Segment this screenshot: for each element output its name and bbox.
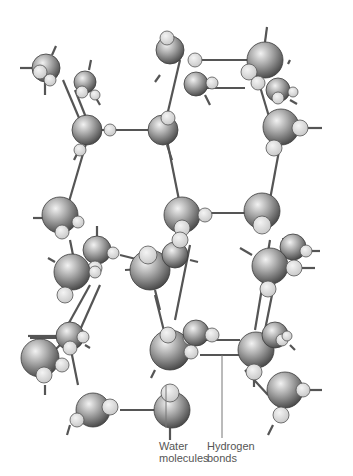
water-molecule <box>267 372 322 435</box>
hydrogen-atom <box>260 281 276 297</box>
water-molecule <box>33 197 84 239</box>
bond-stub <box>52 46 56 55</box>
bond-stub <box>155 75 160 82</box>
hydrogen-atom <box>272 92 284 104</box>
hydrogen-atom <box>107 247 119 259</box>
bond-stub <box>190 260 198 262</box>
hydrogen-atom <box>160 31 174 45</box>
water-molecule <box>183 320 219 359</box>
hydrogen-atom <box>36 367 52 383</box>
hydrogen-atom <box>57 287 73 303</box>
hydrogen-atom <box>188 53 202 67</box>
hydrogen-atom <box>206 77 218 89</box>
hydrogen-atom <box>160 327 176 343</box>
bond-stub <box>290 345 295 350</box>
oxygen-atom <box>54 254 90 290</box>
hydrogen-atom <box>76 86 88 98</box>
bond-stub <box>205 95 210 105</box>
bond-stub <box>265 27 267 42</box>
hydrogen-atom <box>63 341 77 355</box>
hydrogen-atom <box>70 413 84 427</box>
hydrogen-atom <box>198 208 212 222</box>
water-molecule <box>280 234 320 260</box>
water-molecules-layer <box>20 27 322 440</box>
hydrogen-atom <box>184 345 198 359</box>
hydrogen-atom <box>55 358 69 372</box>
hydrogen-atom <box>139 246 157 264</box>
bond-stub <box>288 60 290 64</box>
hydrogen-atom <box>205 328 219 342</box>
hydrogen-atom <box>266 140 282 156</box>
water-molecule <box>67 393 118 435</box>
bond-stub <box>151 370 155 378</box>
bond-stub <box>48 258 55 262</box>
label-water-molecules: Water molecules <box>159 440 209 464</box>
water-molecule <box>148 111 178 160</box>
hydrogen-atom <box>55 225 69 239</box>
bond-stub <box>67 425 70 435</box>
ice-lattice-diagram <box>0 0 353 476</box>
bond-stub <box>89 60 91 70</box>
hydrogen-atom <box>72 216 84 228</box>
water-molecule <box>72 115 116 160</box>
oxygen-atom <box>252 248 288 284</box>
hydrogen-atom <box>89 266 101 278</box>
hydrogen-atom <box>253 216 271 234</box>
water-molecule <box>162 232 198 268</box>
water-molecule <box>263 109 322 156</box>
hydrogen-atom <box>246 364 262 380</box>
hydrogen-atom <box>300 245 312 257</box>
label-water-line1: Water <box>159 440 209 452</box>
water-molecule <box>244 193 285 250</box>
water-molecule <box>164 197 212 236</box>
hydrogen-atom <box>90 90 100 100</box>
water-molecule <box>20 46 60 95</box>
hydrogen-atom <box>172 232 188 248</box>
oxygen-atom <box>184 72 208 96</box>
hydrogen-atom <box>296 383 310 397</box>
bond-stub <box>240 248 252 255</box>
hydrogen-atom <box>74 144 86 156</box>
bond-stub <box>268 425 273 435</box>
water-molecule <box>56 322 90 355</box>
water-molecule <box>184 72 218 105</box>
hydrogen-atom <box>161 111 175 125</box>
bond-stub <box>290 100 297 104</box>
water-molecule <box>154 384 190 440</box>
hydrogen-atom <box>104 124 116 136</box>
label-hydrogen-line1: Hydrogen <box>207 440 255 452</box>
hydrogen-atom <box>273 407 289 423</box>
hydrogen-atom <box>251 76 265 90</box>
hydrogen-bond <box>80 285 100 330</box>
hydrogen-atom <box>161 384 179 402</box>
hydrogen-atom <box>282 331 292 341</box>
oxygen-atom <box>72 115 102 145</box>
bond-stub <box>85 345 90 348</box>
hydrogen-atom <box>102 399 118 415</box>
hydrogen-atom <box>77 331 89 343</box>
label-hydrogen-line2: bonds <box>207 452 255 464</box>
hydrogen-atom <box>292 120 308 136</box>
label-hydrogen-bonds: Hydrogen bonds <box>207 440 255 464</box>
hydrogen-atom <box>288 87 298 97</box>
hydrogen-atom <box>286 260 302 276</box>
oxygen-atom <box>83 236 111 264</box>
label-water-line2: molecules <box>159 452 209 464</box>
hydrogen-atom <box>44 74 56 86</box>
